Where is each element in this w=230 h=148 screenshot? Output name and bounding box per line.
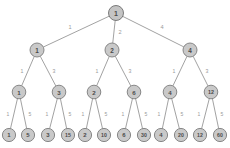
node-label: 12 (197, 132, 203, 138)
tree-node[interactable]: 3 (41, 128, 54, 141)
edge-label: 5 (221, 111, 224, 117)
node-label: 2 (92, 89, 96, 96)
edge-label: 1 (21, 68, 24, 74)
tree-node[interactable]: 4 (163, 85, 177, 99)
edge-label: 1 (173, 68, 176, 74)
node-label: 3 (57, 89, 61, 96)
tree-node[interactable]: 6 (117, 128, 130, 141)
tree-node[interactable]: 2 (87, 85, 101, 99)
edge-label: 2 (118, 29, 121, 35)
tree-edge (50, 99, 58, 129)
tree-edge (125, 99, 132, 129)
node-label: 60 (217, 132, 223, 138)
tree-node[interactable]: 60 (213, 128, 226, 141)
node-label: 1 (114, 10, 118, 17)
tree-edge (162, 99, 168, 129)
tree-node[interactable]: 1 (30, 43, 44, 57)
tree-node[interactable]: 1 (109, 6, 124, 21)
tree-edge (22, 56, 35, 85)
tree-diagram: 124131313151515151515 112413264121531521… (0, 0, 230, 148)
node-label: 15 (65, 132, 71, 138)
tree-node[interactable]: 4 (154, 128, 167, 141)
node-label: 12 (208, 89, 214, 95)
edge-label: 5 (29, 111, 32, 117)
edges-layer (10, 16, 218, 128)
tree-node[interactable]: 20 (174, 128, 187, 141)
tree-edge (113, 20, 115, 43)
tree-node[interactable]: 3 (52, 85, 66, 99)
tree-edge (202, 99, 210, 129)
tree-graphic: 124131313151515151515 112413264121531521… (0, 0, 230, 148)
node-label: 6 (132, 89, 136, 96)
node-label: 20 (178, 132, 184, 138)
tree-edge (86, 99, 92, 129)
tree-node[interactable]: 2 (78, 128, 91, 141)
edge-label: 1 (46, 111, 49, 117)
tree-edge (60, 99, 66, 129)
tree-node[interactable]: 1 (12, 85, 26, 99)
tree-edge (10, 99, 17, 129)
tree-edge (136, 99, 143, 129)
tree-edge (123, 16, 184, 47)
edge-label: 1 (122, 111, 125, 117)
node-label: 1 (17, 89, 21, 96)
node-label: 30 (141, 132, 147, 138)
node-label: 1 (35, 47, 39, 54)
tree-edge (97, 56, 110, 85)
edge-label: 1 (82, 111, 85, 117)
tree-node[interactable]: 12 (193, 128, 206, 141)
tree-node[interactable]: 1 (2, 128, 15, 141)
node-label: 10 (101, 132, 107, 138)
edge-label: 5 (145, 111, 148, 117)
node-label: 2 (110, 47, 114, 54)
tree-node[interactable]: 4 (183, 43, 197, 57)
tree-node[interactable]: 15 (61, 128, 74, 141)
edge-label: 5 (69, 111, 72, 117)
tree-node[interactable]: 6 (127, 85, 141, 99)
tree-edge (96, 99, 103, 129)
edge-label: 5 (105, 111, 108, 117)
edge-label: 4 (160, 24, 163, 30)
tree-node[interactable]: 10 (97, 128, 110, 141)
tree-node[interactable]: 12 (204, 85, 218, 99)
tree-edge (172, 99, 180, 129)
edge-label: 1 (198, 111, 201, 117)
edge-label: 3 (53, 68, 56, 74)
tree-node[interactable]: 5 (21, 128, 34, 141)
edge-label: 5 (181, 111, 184, 117)
node-label: 4 (168, 89, 172, 96)
edge-labels-layer: 124131313151515151515 (7, 24, 224, 117)
edge-label: 1 (68, 24, 71, 30)
edge-label: 3 (206, 68, 209, 74)
tree-node[interactable]: 2 (105, 43, 119, 57)
edge-label: 3 (129, 68, 132, 74)
tree-edge (43, 16, 109, 47)
tree-edge (212, 99, 218, 129)
tree-node[interactable]: 30 (137, 128, 150, 141)
edge-label: 1 (158, 111, 161, 117)
tree-edge (20, 99, 26, 129)
edge-label: 1 (7, 111, 10, 117)
edge-label: 1 (96, 68, 99, 74)
node-label: 4 (188, 47, 192, 54)
